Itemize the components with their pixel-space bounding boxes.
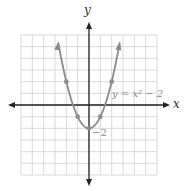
y-axis-arrow-down-icon (86, 179, 92, 186)
data-point (64, 79, 69, 84)
data-point (75, 114, 80, 119)
x-axis-label: x (173, 97, 180, 111)
x-axis-arrow-left-icon (8, 102, 15, 108)
intercept-label: −2 (92, 127, 107, 138)
data-point (87, 126, 92, 131)
y-axis-arrow-up-icon (86, 22, 92, 29)
x-axis-arrow-right-icon (163, 102, 170, 108)
curve-arrow-icon (115, 41, 121, 50)
data-point (98, 114, 103, 119)
y-axis-label: y (84, 3, 91, 17)
data-point (109, 79, 114, 84)
equation-label: y = x² − 2 (112, 88, 163, 99)
